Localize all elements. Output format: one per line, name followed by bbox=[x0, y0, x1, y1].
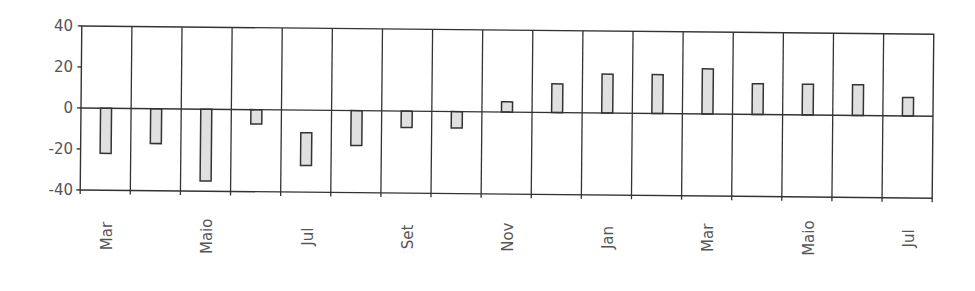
x-tick-label: Maio bbox=[800, 220, 818, 255]
bar-mar bbox=[702, 69, 713, 114]
bar-ago bbox=[351, 111, 362, 146]
bar-jun bbox=[251, 110, 262, 124]
x-tick-label: Jul bbox=[299, 228, 317, 247]
bar-nov bbox=[501, 102, 512, 112]
bar-out bbox=[451, 112, 462, 129]
y-axis-labels: 40200-20-40 bbox=[49, 17, 74, 199]
y-tick-label: -40 bbox=[49, 181, 74, 199]
x-axis-labels: MarMaioJulSetNovJanMarMaioJul bbox=[98, 219, 918, 256]
x-tick-label: Mar bbox=[699, 223, 717, 252]
bar-jan bbox=[602, 74, 613, 113]
bar-set bbox=[401, 111, 412, 128]
bar-jun bbox=[852, 85, 863, 116]
bar-jul bbox=[902, 97, 913, 116]
bar-maio bbox=[200, 109, 212, 181]
bar-mar bbox=[100, 108, 111, 153]
y-tick-label: 0 bbox=[63, 99, 73, 117]
x-tick-label: Nov bbox=[499, 222, 517, 251]
y-tick-label: 40 bbox=[54, 17, 73, 35]
bar-abr bbox=[752, 84, 763, 115]
x-tick-label: Mar bbox=[98, 221, 116, 250]
x-tick-label: Set bbox=[399, 224, 417, 249]
x-tick-label: Maio bbox=[198, 219, 216, 254]
bar-jul bbox=[300, 133, 311, 166]
x-tick-label: Jul bbox=[900, 229, 918, 248]
y-tick-label: 20 bbox=[54, 58, 73, 76]
y-tick-label: -20 bbox=[49, 140, 74, 158]
bar-fev bbox=[652, 75, 663, 114]
x-tick-label: Jan bbox=[599, 226, 617, 250]
bar-dez bbox=[552, 84, 563, 113]
plot-area bbox=[76, 26, 934, 202]
bar-maio bbox=[802, 84, 813, 115]
bar-abr bbox=[150, 109, 161, 144]
bar-chart: 40200-20-40 MarMaioJulSetNovJanMarMaioJu… bbox=[0, 0, 975, 291]
